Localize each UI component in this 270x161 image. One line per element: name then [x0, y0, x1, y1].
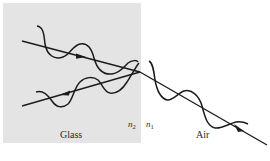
glass-region	[3, 3, 141, 143]
diagram-canvas	[0, 0, 270, 161]
air-index-subscript: 1	[151, 123, 154, 130]
transmitted-arrow-icon	[234, 124, 244, 132]
refraction-diagram: Glass Air n2 n1	[0, 0, 270, 161]
air-index-label: n1	[146, 120, 154, 131]
glass-index-subscript: 2	[133, 123, 136, 130]
air-label: Air	[196, 130, 209, 140]
transmitted-wave	[149, 61, 248, 128]
glass-label: Glass	[60, 130, 82, 140]
glass-index-label: n2	[128, 120, 136, 131]
